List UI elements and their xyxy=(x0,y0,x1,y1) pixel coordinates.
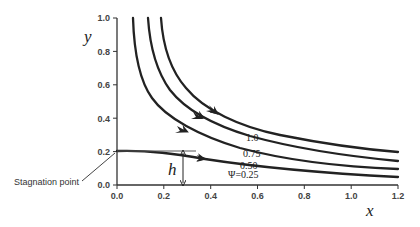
x-tick-label: 0.4 xyxy=(204,191,217,201)
x-tick-label: 1.0 xyxy=(345,191,358,201)
y-tick-label: 0.2 xyxy=(97,147,110,157)
y-tick-label: 0.6 xyxy=(97,80,110,90)
y-axis: 1.0 0.8 0.6 0.4 0.2 0.0 y xyxy=(82,13,117,190)
streamline-chart: 1.0 0.8 0.6 0.4 0.2 0.0 y 0.0 0.2 0.4 0.… xyxy=(0,0,420,227)
stagnation-leader xyxy=(82,153,115,181)
streamline-0.75 xyxy=(148,18,398,161)
x-tick-label: 0.0 xyxy=(111,191,124,201)
x-tick-label: 0.2 xyxy=(158,191,171,201)
x-tick-label: 0.6 xyxy=(251,191,264,201)
y-tick-label: 0.8 xyxy=(97,47,110,57)
curve-label: 1.0 xyxy=(246,132,259,143)
x-axis-label: x xyxy=(365,201,374,220)
y-tick-label: 0.4 xyxy=(97,114,110,124)
y-tick-label: 1.0 xyxy=(97,13,110,23)
y-tick-label: 0.0 xyxy=(97,180,110,190)
curve-label: 0.75 xyxy=(243,148,261,159)
y-axis-label: y xyxy=(82,27,92,46)
curve-label: Ψ=0.25 xyxy=(228,169,259,180)
height-label: h xyxy=(168,160,177,179)
stagnation-label: Stagnation point xyxy=(14,177,80,187)
x-axis: 0.0 0.2 0.4 0.6 0.8 1.0 1.2 x xyxy=(111,185,405,220)
x-tick-label: 1.2 xyxy=(392,191,405,201)
x-tick-label: 0.8 xyxy=(298,191,311,201)
